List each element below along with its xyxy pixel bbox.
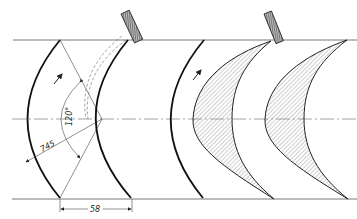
grinding-tool-1	[121, 10, 143, 43]
grinding-tool-2	[264, 11, 283, 44]
blade-profile-2	[265, 40, 348, 199]
pitch-label: 58	[90, 205, 100, 214]
tool-path-2	[87, 40, 126, 119]
blade-profile-1	[193, 41, 274, 199]
radius-label: 745	[39, 139, 57, 154]
angle-label: 120°	[65, 107, 74, 126]
blade-development-drawing: 120° 745 58	[0, 0, 357, 219]
rotation-arrow-2	[193, 70, 201, 80]
rotation-arrow-1	[54, 74, 62, 84]
